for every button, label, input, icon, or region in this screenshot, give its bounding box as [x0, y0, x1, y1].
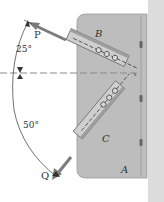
force-q-arrow — [52, 157, 71, 180]
label-angle-25: 25° — [16, 44, 32, 54]
label-a: A — [120, 164, 128, 175]
gusset-plate-diagram: P 25° B 50° C Q A — [0, 0, 164, 202]
label-c: C — [102, 133, 110, 144]
arc-arrowhead-mid-down — [17, 74, 23, 79]
label-b: B — [94, 28, 102, 39]
wall — [148, 0, 164, 202]
label-p: P — [34, 29, 41, 40]
label-angle-50: 50° — [23, 120, 39, 130]
arc-arrowhead-mid-up — [17, 67, 23, 73]
label-q: Q — [41, 170, 49, 181]
